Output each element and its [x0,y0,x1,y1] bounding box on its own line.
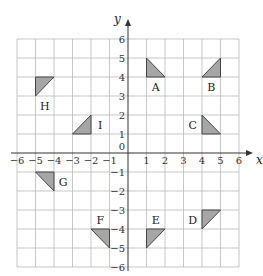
y-tick-label: −2 [110,186,125,197]
y-tick-label: 3 [119,91,125,102]
shape-label-g: G [59,176,68,189]
x-tick-label: −1 [102,155,117,166]
triangle-c [202,115,221,134]
triangle-d [202,210,221,229]
y-tick-label: −3 [110,205,125,216]
y-tick-label: 2 [119,110,125,121]
x-tick-label: 5 [217,155,223,166]
x-tick-label: −5 [28,155,43,166]
triangle-h [36,77,55,96]
shape-label-c: C [189,119,197,132]
shape-label-e: E [152,214,160,227]
triangle-e [147,229,166,248]
x-tick-label: 1 [143,155,149,166]
x-tick-label: −3 [65,155,80,166]
shape-label-h: H [40,100,50,113]
coordinate-grid: xy −6−5−4−3−2−1123456654321−1−2−3−4−5−60… [0,0,263,276]
y-tick-label: 5 [119,53,125,64]
x-tick-label: −2 [84,155,99,166]
triangle-g [36,172,55,191]
triangle-f [91,229,110,248]
triangle-b [202,58,221,77]
x-tick-label: −4 [47,155,62,166]
origin-label: 0 [119,141,125,152]
shape-label-i: I [98,119,102,132]
x-tick-label: 2 [162,155,168,166]
x-tick-label: −6 [10,155,25,166]
shape-label-f: F [96,214,104,227]
shape-label-d: D [188,214,197,227]
y-axis-arrow-icon [125,19,131,26]
x-axis-arrow-icon [246,150,253,156]
y-tick-label: 4 [119,72,125,83]
triangle-i [73,115,92,134]
y-tick-label: −1 [110,167,125,178]
shape-label-b: B [207,81,215,94]
triangle-a [147,58,166,77]
x-axis-label: x [256,153,263,167]
y-tick-label: −6 [110,262,125,273]
y-axis-label: y [113,12,121,26]
x-tick-label: 3 [180,155,186,166]
axes: xy [11,12,263,271]
y-tick-label: −5 [110,243,125,254]
shape-label-a: A [151,81,161,94]
x-tick-label: 4 [199,155,205,166]
y-tick-label: 6 [119,34,125,45]
y-tick-label: −4 [110,224,125,235]
x-tick-label: 6 [236,155,242,166]
y-tick-label: 1 [119,129,125,140]
